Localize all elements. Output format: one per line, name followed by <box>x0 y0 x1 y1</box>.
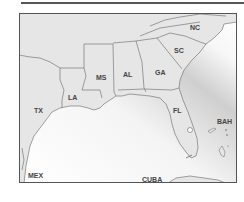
label-tx: TX <box>34 107 43 114</box>
label-ga: GA <box>155 69 166 76</box>
label-la: LA <box>68 94 77 101</box>
lake-okeechobee <box>188 128 193 133</box>
label-cuba: CUBA <box>142 176 162 183</box>
label-sc: SC <box>174 47 184 54</box>
label-al: AL <box>123 71 133 78</box>
label-nc: NC <box>190 24 200 31</box>
southeast-us-map: NC SC GA AL MS LA TX FL BAH MEX CUBA <box>0 0 244 202</box>
island-dot <box>226 134 228 136</box>
label-fl: FL <box>173 107 182 114</box>
island-dot <box>227 145 228 146</box>
label-ms: MS <box>96 74 107 81</box>
island-dot <box>225 129 227 131</box>
label-mex: MEX <box>28 172 44 179</box>
label-bah: BAH <box>217 118 232 125</box>
